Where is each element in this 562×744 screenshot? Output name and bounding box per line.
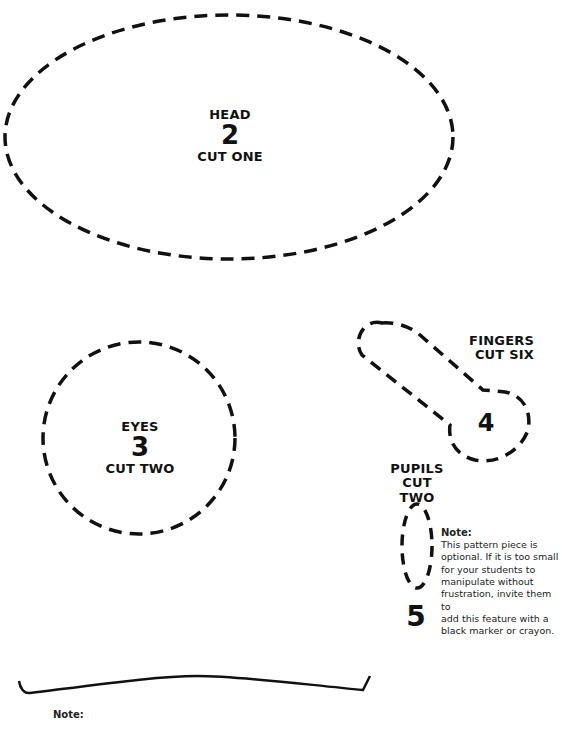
pupils-note-line: frustration, invite them to <box>441 588 561 613</box>
fingers-name: FINGERS <box>462 334 562 348</box>
bottom-note: Note: <box>53 708 84 721</box>
head-label: HEAD 2 CUT ONE <box>180 108 280 164</box>
eyes-label: EYES 3 CUT TWO <box>90 420 190 476</box>
fingers-label: FINGERS CUT SIX <box>462 334 562 363</box>
pupils-outline <box>402 504 432 588</box>
pupils-note-line: black marker or crayon. <box>441 625 561 637</box>
pupils-label: PUPILS CUT TWO <box>387 462 447 505</box>
fingers-number: 4 <box>474 410 498 436</box>
eyes-number: 3 <box>90 434 190 461</box>
pupils-note-heading: Note: <box>441 526 561 539</box>
pupils-note-line: This pattern piece is <box>441 539 561 551</box>
pupils-name: PUPILS <box>387 462 447 476</box>
head-number: 2 <box>180 122 280 149</box>
pupils-note-line: add this feature with a <box>441 613 561 625</box>
pupils-number: 5 <box>400 602 432 633</box>
head-cut: CUT ONE <box>180 150 280 164</box>
pupils-note-line: for your students to <box>441 564 561 576</box>
pupils-cut-line1: CUT <box>387 476 447 490</box>
eyes-cut: CUT TWO <box>90 462 190 476</box>
pupils-note-line: manipulate without <box>441 576 561 588</box>
bottom-curve-line <box>19 676 370 693</box>
fingers-cut: CUT SIX <box>462 348 562 362</box>
pupils-note: Note: This pattern piece is optional. If… <box>441 526 561 638</box>
bottom-note-heading: Note: <box>53 708 84 721</box>
pupils-note-line: optional. If it is too small <box>441 551 561 563</box>
pupils-cut-line2: TWO <box>387 491 447 505</box>
